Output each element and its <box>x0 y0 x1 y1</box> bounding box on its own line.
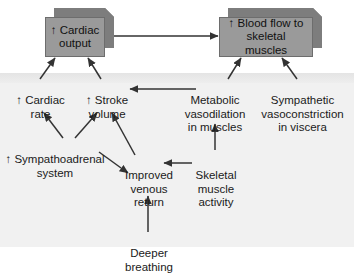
node-stroke-volume[interactable]: ↑ Stroke volume <box>78 81 136 121</box>
node-sympathoadrenal[interactable]: ↑ Sympathoadrenal system <box>3 140 107 193</box>
arrow-cardiac-rate-to-cardiac-output <box>40 58 55 79</box>
arrow-stroke-volume-to-cardiac-output <box>88 58 101 79</box>
box-front-face: ↑ Cardiac output <box>45 17 105 57</box>
arrow-metabolic-to-blood-flow <box>228 58 241 79</box>
node-metabolic-vasodilation-label: Metabolic vasodilation in muscles <box>185 94 246 133</box>
node-metabolic-vasodilation[interactable]: Metabolic vasodilation in muscles <box>176 81 254 134</box>
node-sympathetic-vasoconstriction-label: Sympathetic vasoconstriction in viscera <box>261 94 343 133</box>
box-blood-flow[interactable]: ↑ Blood flow to skeletal muscles <box>219 17 313 57</box>
box-side-bevel <box>313 8 322 48</box>
node-deeper-breathing-label: Deeper breathing <box>125 247 173 272</box>
node-deeper-breathing[interactable]: Deeper breathing <box>112 234 186 274</box>
box-front-face: ↑ Blood flow to skeletal muscles <box>219 17 313 57</box>
arrow-sympathetic-to-blood-flow <box>282 58 297 79</box>
node-cardiac-rate-label: ↑ Cardiac rate <box>16 94 65 119</box>
node-skeletal-muscle-activity-label: Skeletal muscle activity <box>196 169 237 208</box>
node-stroke-volume-label: ↑ Stroke volume <box>86 94 128 119</box>
node-skeletal-muscle-activity[interactable]: Skeletal muscle activity <box>189 156 243 209</box>
box-top-bevel <box>228 8 322 17</box>
box-blood-flow-label: ↑ Blood flow to skeletal muscles <box>220 17 312 58</box>
node-venous-return-label: Improved venous return <box>125 169 173 208</box>
box-cardiac-output[interactable]: ↑ Cardiac output <box>45 17 105 57</box>
node-sympathoadrenal-label: ↑ Sympathoadrenal system <box>3 153 107 180</box>
node-cardiac-rate[interactable]: ↑ Cardiac rate <box>3 81 78 121</box>
node-venous-return[interactable]: Improved venous return <box>118 156 180 209</box>
node-sympathetic-vasoconstriction[interactable]: Sympathetic vasoconstriction in viscera <box>253 81 352 134</box>
box-side-bevel <box>105 8 114 48</box>
box-cardiac-output-label: ↑ Cardiac output <box>47 24 104 51</box>
